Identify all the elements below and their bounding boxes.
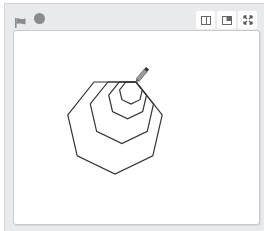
stage-toolbar: [5, 4, 264, 32]
stage-canvas[interactable]: [13, 30, 260, 225]
pencil-sprite[interactable]: [134, 67, 149, 83]
small-stage-button[interactable]: [196, 11, 215, 29]
fullscreen-button[interactable]: [238, 11, 257, 29]
pen-drawing: [14, 31, 259, 224]
fullscreen-icon: [243, 15, 253, 25]
heptagon-4: [120, 82, 143, 104]
green-flag-icon[interactable]: [15, 14, 26, 24]
stage-panel: [4, 3, 264, 231]
small-stage-icon: [201, 16, 211, 25]
normal-stage-icon: [222, 16, 232, 25]
normal-stage-button[interactable]: [217, 11, 236, 29]
stop-icon[interactable]: [34, 13, 45, 24]
